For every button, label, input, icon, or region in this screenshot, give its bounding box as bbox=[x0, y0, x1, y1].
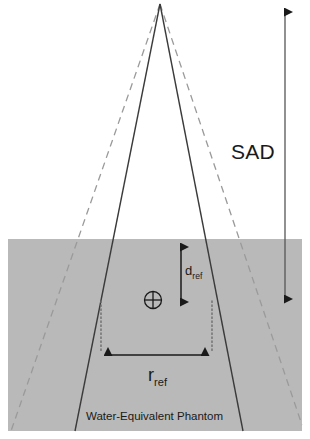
r-ref-label: rref bbox=[148, 366, 167, 388]
d-ref-label: dref bbox=[185, 264, 203, 280]
r-ref-label-subscript: ref bbox=[154, 376, 167, 388]
phantom-label: Water-Equivalent Phantom bbox=[86, 411, 223, 423]
sad-label: SAD bbox=[231, 141, 275, 162]
beam-geometry-diagram: SAD dref rref Water-Equivalent Phantom bbox=[0, 0, 310, 439]
reference-point-crosshair-icon bbox=[145, 292, 162, 309]
water-equivalent-phantom-block bbox=[8, 239, 302, 431]
d-ref-label-subscript: ref bbox=[192, 271, 202, 281]
